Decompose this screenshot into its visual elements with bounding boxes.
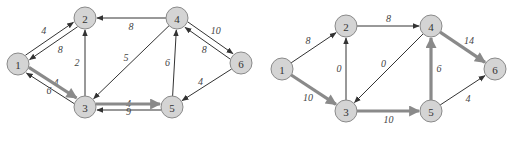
edge-6-to-4: [185, 27, 230, 59]
node-label: 5: [169, 102, 175, 114]
edge-1-to-2: [25, 22, 73, 55]
node-label: 1: [15, 59, 21, 71]
edge-4-to-6: [440, 32, 485, 62]
node-6: 6: [484, 58, 506, 80]
node-4: 4: [420, 15, 442, 37]
right-graph-edges: 810080106144: [291, 13, 485, 125]
node-5: 5: [161, 96, 183, 118]
left-graph-edges: 48462856108449: [25, 18, 233, 117]
node-2: 2: [74, 7, 96, 29]
node-label: 6: [238, 58, 244, 70]
edge-1-to-3: [29, 67, 77, 98]
edge-weight-label: 10: [384, 114, 394, 125]
edge-weight-label: 8: [202, 44, 207, 55]
edge-weight-label: 8: [386, 13, 391, 24]
node-3: 3: [335, 100, 357, 122]
node-1: 1: [271, 58, 293, 80]
edge-weight-label: 9: [126, 106, 131, 117]
edge-weight-label: 0: [337, 63, 342, 74]
edge-weight-label: 5: [124, 52, 129, 63]
node-4: 4: [166, 7, 188, 29]
edge-1-to-2: [291, 33, 336, 63]
edge-weight-label: 6: [47, 85, 52, 96]
node-label: 5: [428, 106, 434, 118]
edge-weight-label: 14: [464, 35, 474, 46]
edge-2-to-1: [30, 27, 78, 60]
node-label: 2: [82, 13, 88, 25]
edge-weight-label: 8: [58, 44, 63, 55]
node-label: 6: [492, 64, 498, 76]
edge-weight-label: 6: [165, 57, 170, 68]
edge-weight-label: 4: [466, 93, 471, 104]
left-graph: 48462856108449 123456: [7, 7, 252, 118]
edge-weight-label: 4: [41, 25, 46, 36]
node-label: 2: [343, 21, 349, 33]
node-5: 5: [420, 100, 442, 122]
node-3: 3: [74, 96, 96, 118]
edge-weight-label: 2: [75, 57, 80, 68]
edge-4-to-3: [354, 34, 423, 103]
edge-6-to-5: [182, 69, 232, 101]
edge-4-to-3: [94, 26, 169, 99]
node-1: 1: [7, 53, 29, 75]
node-label: 4: [428, 21, 434, 33]
node-2: 2: [335, 15, 357, 37]
edge-weight-label: 8: [129, 21, 134, 32]
edge-weight-label: 0: [381, 58, 386, 69]
edge-weight-label: 10: [303, 92, 313, 103]
node-label: 3: [343, 106, 349, 118]
edge-weight-label: 8: [306, 35, 311, 46]
node-label: 3: [82, 102, 88, 114]
edge-1-to-3: [291, 75, 336, 104]
node-6: 6: [230, 52, 252, 74]
node-label: 1: [279, 64, 285, 76]
graph-diagrams: 48462856108449 123456 810080106144 12345…: [0, 0, 512, 146]
edge-5-to-6: [440, 76, 485, 105]
node-label: 4: [174, 13, 180, 25]
edge-weight-label: 6: [437, 63, 442, 74]
edge-weight-label: 10: [211, 25, 221, 36]
edge-weight-label: 4: [198, 76, 203, 87]
diagram-canvas: 48462856108449 123456 810080106144 12345…: [0, 0, 512, 146]
right-graph: 810080106144 123456: [271, 13, 506, 125]
edge-5-to-4: [173, 30, 177, 96]
